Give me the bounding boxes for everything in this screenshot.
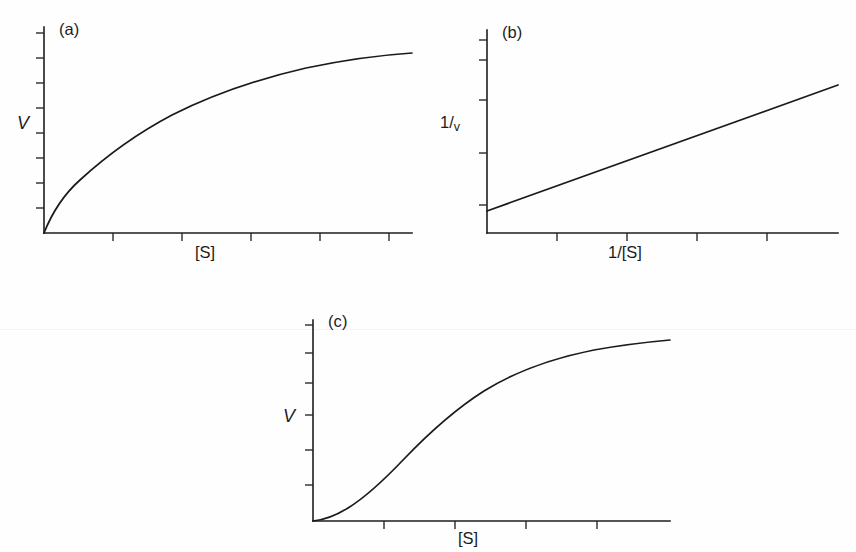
panel-b-y-ticks bbox=[479, 40, 487, 205]
panel-a-plot bbox=[0, 0, 430, 280]
enzyme-kinetics-figure: (a) V [S] bbox=[0, 0, 856, 552]
panel-a-y-ticks bbox=[36, 33, 44, 208]
panel-c-y-axis-label: V bbox=[283, 406, 295, 427]
panel-b-y-label-numerator: 1/ bbox=[440, 113, 454, 131]
panel-b-y-label-denominator: v bbox=[454, 120, 460, 134]
panel-c-label: (c) bbox=[328, 312, 348, 331]
panel-b-line bbox=[487, 85, 838, 211]
panel-b: (b) 1/v 1/[S] bbox=[430, 0, 856, 280]
panel-a-x-axis-label: [S] bbox=[195, 243, 215, 262]
panel-b-x-ticks bbox=[557, 233, 767, 241]
panel-a-label: (a) bbox=[59, 20, 79, 39]
panel-a: (a) V [S] bbox=[0, 0, 430, 280]
panel-b-label: (b) bbox=[502, 23, 522, 42]
panel-b-x-axis-label: 1/[S] bbox=[608, 243, 642, 262]
panel-b-plot bbox=[430, 0, 856, 280]
panel-c-x-ticks bbox=[384, 521, 597, 529]
panel-a-curve bbox=[44, 53, 412, 233]
panel-c-x-axis-label: [S] bbox=[458, 529, 478, 548]
panel-c-curve bbox=[313, 340, 670, 521]
panel-a-x-ticks bbox=[113, 233, 389, 241]
panel-c-plot bbox=[180, 280, 690, 552]
panel-b-y-axis-label: 1/v bbox=[440, 113, 460, 132]
panel-a-y-axis-label: V bbox=[17, 113, 29, 134]
panel-c: (c) V [S] bbox=[180, 280, 690, 552]
panel-c-y-ticks bbox=[305, 325, 313, 485]
